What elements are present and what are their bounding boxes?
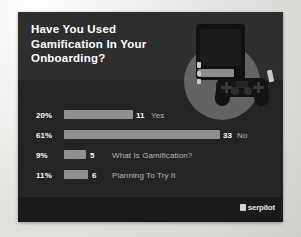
row-bar bbox=[64, 130, 220, 139]
row-value: 11 bbox=[136, 111, 144, 120]
row-label: What Is Gamification? bbox=[112, 151, 192, 160]
cable-segment-icon bbox=[197, 71, 201, 76]
infographic-card: Have You Used Gamification In Your Onboa… bbox=[18, 12, 283, 222]
row-value: 33 bbox=[223, 131, 232, 140]
userpilot-mark-icon bbox=[240, 204, 246, 211]
controller-stick-right bbox=[244, 87, 252, 95]
page-title: Have You Used Gamification In Your Onboa… bbox=[31, 22, 166, 66]
chart-row: 9% 5 What Is Gamification? bbox=[18, 146, 283, 166]
row-label: No bbox=[237, 131, 247, 140]
row-percent: 20% bbox=[36, 111, 66, 120]
row-label: Planning To Try It bbox=[112, 171, 175, 180]
row-percent: 11% bbox=[36, 171, 66, 180]
userpilot-logo-text: serpilot bbox=[248, 203, 275, 212]
chart-row: 11% 6 Planning To Try It bbox=[18, 166, 283, 186]
row-label: Yes bbox=[151, 111, 164, 120]
cable-segment-icon bbox=[197, 62, 201, 68]
controller-stick-left bbox=[231, 87, 239, 95]
row-value: 5 bbox=[90, 151, 94, 160]
row-percent: 9% bbox=[36, 151, 66, 160]
chart-row: 61% 33 No bbox=[18, 126, 283, 146]
row-bar bbox=[64, 170, 88, 179]
row-bar bbox=[64, 150, 86, 159]
row-bar bbox=[64, 110, 133, 119]
userpilot-logo: serpilot bbox=[240, 203, 275, 212]
page-background: Have You Used Gamification In Your Onboa… bbox=[0, 0, 301, 237]
cable-segment-icon bbox=[197, 79, 201, 84]
row-percent: 61% bbox=[36, 131, 66, 140]
bar-chart: 20% 11 Yes 61% 33 No 9% 5 What Is Gamifi… bbox=[18, 106, 283, 186]
row-value: 6 bbox=[92, 171, 96, 180]
console-screen bbox=[200, 29, 241, 66]
chart-row: 20% 11 Yes bbox=[18, 106, 283, 126]
